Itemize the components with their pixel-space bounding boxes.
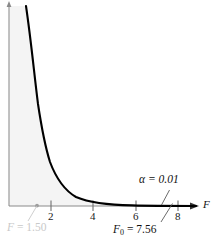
f0-annotation: F0 = 7.56 xyxy=(113,224,156,236)
f-distribution-figure: 2 4 6 8 F α = 0.01 F0 = 7.56 F = 1.50 xyxy=(0,0,217,248)
x-tick-label-8: 8 xyxy=(175,211,181,222)
chart-canvas xyxy=(0,0,217,248)
f0-subscript: 0 xyxy=(120,228,124,237)
alpha-annotation: α = 0.01 xyxy=(139,174,179,186)
x-tick-label-6: 6 xyxy=(133,211,139,222)
x-tick-label-2: 2 xyxy=(48,211,54,222)
f-observed-value: = 1.50 xyxy=(17,221,47,233)
f0-symbol: F xyxy=(113,223,120,235)
alpha-leader-line xyxy=(162,190,170,205)
x-axis-label: F xyxy=(203,199,210,210)
f0-value: = 7.56 xyxy=(127,223,157,235)
f-observed-leader-line xyxy=(28,206,37,221)
f-observed-marker-dot xyxy=(35,204,39,208)
x-tick-label-4: 4 xyxy=(90,211,96,222)
y-axis-arrow-icon xyxy=(7,1,12,7)
f-observed-symbol: F xyxy=(7,221,14,233)
f-observed-annotation: F = 1.50 xyxy=(7,222,46,234)
